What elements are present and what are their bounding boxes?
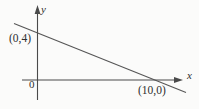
origin-label: 0 (29, 79, 35, 90)
graph-figure: y x 0 (0,4) (10,0) (0, 0, 199, 109)
graph-canvas (0, 0, 199, 109)
x-axis-label: x (187, 70, 192, 81)
x-intercept-label: (10,0) (138, 85, 166, 97)
y-axis-label: y (41, 4, 46, 15)
plotted-line (14, 24, 186, 93)
x-axis-arrow-icon (174, 77, 183, 83)
y-axis-arrow-icon (35, 5, 41, 14)
y-intercept-label: (0,4) (9, 33, 31, 45)
